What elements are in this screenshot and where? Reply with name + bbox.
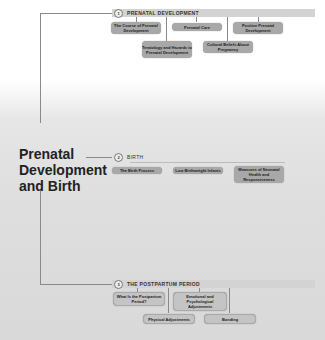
connector-section-3 bbox=[40, 284, 112, 285]
node-prenatal-care[interactable]: Prenatal Care bbox=[172, 23, 222, 31]
section-2-title: BIRTH bbox=[127, 154, 143, 160]
node-label: Prenatal Care bbox=[184, 25, 210, 30]
node-label: Positive Prenatal Development bbox=[233, 23, 283, 33]
spine-line bbox=[40, 13, 41, 123]
connector-section-1 bbox=[40, 13, 112, 14]
node-what-is-postpartum[interactable]: What Is the Postpartum Period? bbox=[113, 292, 165, 306]
node-positive-prenatal-development[interactable]: Positive Prenatal Development bbox=[233, 22, 283, 34]
node-label: Physical Adjustments bbox=[148, 317, 189, 322]
section-2-number: 2 bbox=[114, 153, 123, 162]
node-birth-process[interactable]: The Birth Process bbox=[112, 167, 162, 174]
main-title-line-2: Development bbox=[19, 162, 107, 178]
node-label: Low Birthweight Infants bbox=[175, 168, 220, 173]
section-2-header: 2 BIRTH bbox=[112, 153, 315, 161]
connector bbox=[227, 17, 228, 42]
node-course-of-prenatal-development[interactable]: The Course of Prenatal Development bbox=[111, 22, 161, 34]
connector bbox=[166, 17, 167, 42]
main-title: Prenatal Development and Birth bbox=[19, 146, 107, 194]
section-3-title: THE POSTPARTUM PERIOD bbox=[127, 281, 200, 287]
node-physical-adjustments[interactable]: Physical Adjustments bbox=[143, 314, 195, 324]
section-1-header: 1 PRENATAL DEVELOPMENT bbox=[112, 9, 315, 17]
section-3-number: 3 bbox=[114, 280, 123, 289]
node-label: Cultural Beliefs About Pregnancy bbox=[203, 42, 253, 52]
section-3-header: 3 THE POSTPARTUM PERIOD bbox=[112, 280, 315, 288]
main-title-line-3: and Birth bbox=[19, 178, 107, 194]
connector bbox=[229, 288, 230, 313]
section-1-number: 1 bbox=[114, 9, 123, 18]
node-label: The Birth Process bbox=[120, 168, 154, 173]
section-1-title: PRENATAL DEVELOPMENT bbox=[127, 10, 199, 16]
connector bbox=[196, 17, 197, 22]
node-label: Emotional and Psychological Adjustments bbox=[174, 294, 226, 309]
node-teratology-hazards[interactable]: Teratology and Hazards to Prenatal Devel… bbox=[142, 41, 192, 58]
main-title-line-1: Prenatal bbox=[19, 146, 107, 162]
connector bbox=[168, 288, 169, 313]
node-label: What Is the Postpartum Period? bbox=[114, 294, 164, 304]
node-emotional-psychological[interactable]: Emotional and Psychological Adjustments bbox=[173, 292, 227, 311]
node-cultural-beliefs[interactable]: Cultural Beliefs About Pregnancy bbox=[203, 41, 253, 53]
connector bbox=[130, 162, 285, 163]
node-label: Teratology and Hazards to Prenatal Devel… bbox=[142, 45, 192, 55]
node-label: Measures of Neonatal Health and Responsi… bbox=[234, 167, 284, 182]
node-low-birthweight[interactable]: Low Birthweight Infants bbox=[173, 167, 223, 174]
node-bonding[interactable]: Bonding bbox=[204, 314, 256, 324]
node-label: Bonding bbox=[222, 317, 238, 322]
spine-line-lower bbox=[40, 190, 41, 284]
node-neonatal-health[interactable]: Measures of Neonatal Health and Responsi… bbox=[234, 166, 284, 183]
node-label: The Course of Prenatal Development bbox=[111, 23, 161, 33]
